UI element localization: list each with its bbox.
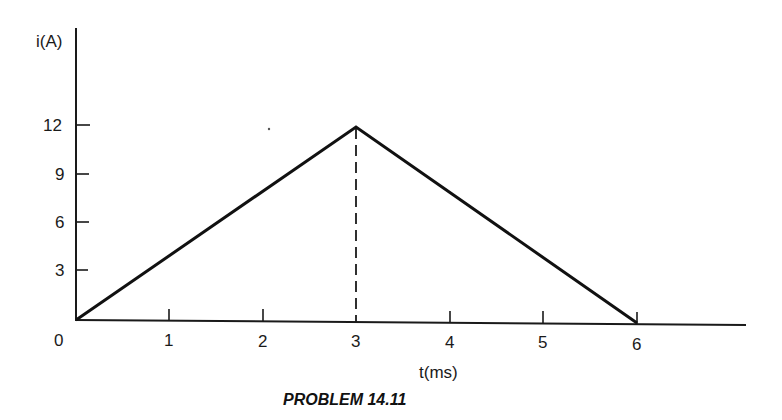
y-label-6: 6 [55, 213, 64, 232]
x-label-5: 5 [538, 333, 547, 352]
x-axis [75, 320, 746, 325]
y-label-12: 12 [43, 116, 62, 135]
y-axis-title: i(A) [36, 32, 62, 51]
scan-speck [268, 128, 270, 130]
y-label-3: 3 [55, 261, 64, 280]
x-label-6: 6 [632, 335, 641, 354]
current-waveform [76, 127, 637, 323]
x-label-3: 3 [351, 332, 360, 351]
x-label-1: 1 [164, 331, 173, 350]
y-label-9: 9 [55, 165, 64, 184]
x-label-4: 4 [445, 333, 454, 352]
chart: i(A) 12 9 6 3 0 1 2 3 4 5 6 t(ms) PROBLE… [0, 0, 782, 420]
origin-label: 0 [54, 331, 63, 350]
figure-caption: PROBLEM 14.11 [283, 391, 406, 408]
x-label-2: 2 [258, 332, 267, 351]
x-axis-title: t(ms) [419, 363, 458, 382]
